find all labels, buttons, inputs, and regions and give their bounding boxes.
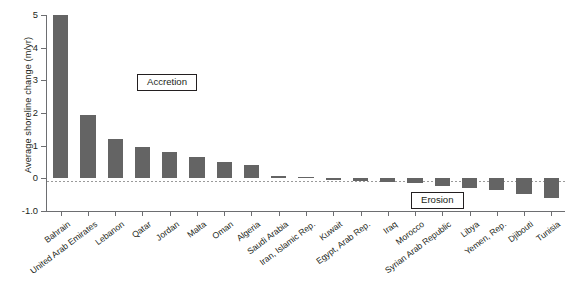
x-category-label: Tunisia — [556, 203, 571, 227]
y-tick-mark — [41, 80, 47, 81]
y-tick-label: 4 — [0, 42, 38, 53]
y-tick-mark — [41, 48, 47, 49]
erosion-annotation: Erosion — [411, 192, 464, 209]
bar — [326, 178, 341, 180]
accretion-annotation: Accretion — [137, 74, 197, 91]
bar — [244, 165, 259, 179]
y-tick-mark — [41, 146, 47, 147]
shoreline-change-bar-chart: Average shoreline change (m/yr) 543210-1… — [0, 0, 571, 308]
bar — [298, 177, 313, 179]
bar — [516, 178, 531, 194]
bar — [80, 115, 95, 179]
x-tick-mark — [415, 211, 416, 216]
bar — [135, 147, 150, 178]
bar — [53, 15, 68, 178]
zero-reference-line — [47, 181, 565, 182]
bar — [217, 162, 232, 178]
x-category-label: Iraq — [393, 210, 411, 227]
x-tick-mark — [61, 211, 62, 216]
y-tick-label: 5 — [0, 9, 38, 20]
bar — [380, 178, 395, 182]
bar — [435, 178, 450, 185]
bar — [162, 152, 177, 179]
y-tick-mark — [41, 211, 47, 212]
bar — [189, 157, 204, 178]
y-tick-label: 0 — [0, 172, 38, 183]
y-tick-mark — [41, 113, 47, 114]
bar — [271, 176, 286, 178]
bar — [108, 139, 123, 178]
y-tick-label: 3 — [0, 74, 38, 85]
y-tick-mark — [41, 178, 47, 179]
y-tick-label: 1 — [0, 140, 38, 151]
y-tick-mark — [41, 15, 47, 16]
y-tick-label: -1.0 — [0, 205, 38, 216]
bar — [462, 178, 477, 188]
y-tick-label: 2 — [0, 107, 38, 118]
